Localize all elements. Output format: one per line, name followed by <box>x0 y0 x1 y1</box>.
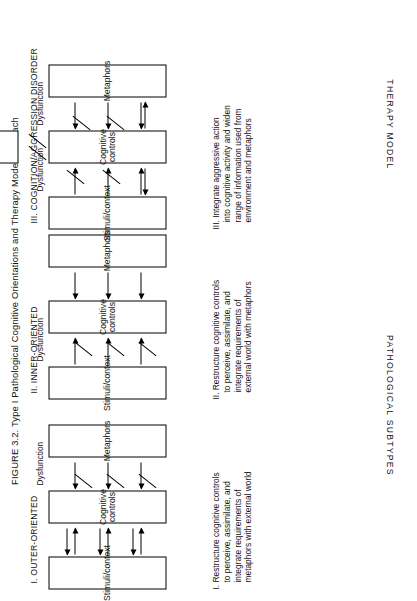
box-metaphors-label: Metaphors <box>102 60 111 101</box>
arrow-group-metaphors-to-controls <box>48 268 166 300</box>
arrow-left <box>74 462 75 488</box>
dysfunction-label: Dysfunction <box>34 317 44 361</box>
dysfunction-label: Dysfunction <box>34 441 44 485</box>
therapy-model-outer-oriented: I. Restructure cognitive controls to per… <box>210 464 253 589</box>
box-metaphors: Metaphors <box>48 424 166 457</box>
arrow-left <box>132 528 133 554</box>
box-cognitive-controls-label: Cognitive controls <box>98 129 117 165</box>
box-cognitive-controls-label: Cognitive controls <box>98 299 117 335</box>
column-header-outer-oriented: I. OUTER-ORIENTED <box>28 495 38 583</box>
figure-title: FIGURE 3.2. Type I Pathological Cognitiv… <box>8 0 19 601</box>
box-cognitive-controls: Cognitive controls <box>48 130 166 163</box>
therapy-model-cognition-aggression-disorder: III. Integrate aggressive action into co… <box>210 104 253 229</box>
arrow-left <box>107 102 108 128</box>
arrow-group-controls-to-stimuli <box>48 524 166 556</box>
column-cognition-aggression-disorder: Response Stimuli/context Dysfunction Cog… <box>48 51 348 229</box>
arrow-left <box>74 102 75 128</box>
arrow-left <box>144 168 145 194</box>
dysfunction-label: Dysfunction <box>34 81 44 125</box>
box-cognitive-controls: Cognitive controls <box>48 300 166 333</box>
arrow-group-metaphors-to-controls <box>48 458 166 490</box>
column-outer-oriented: Stimuli/context Cognitive controls Dysfu… <box>48 411 348 589</box>
column-inner-oriented: Stimuli/context Dysfunction Cognitive co… <box>48 221 348 399</box>
arrow-left <box>99 528 100 554</box>
box-cognitive-controls-label: Cognitive controls <box>98 489 117 525</box>
row-label-therapy-model: THERAPY MODEL <box>384 39 394 209</box>
arrow-left <box>74 272 75 298</box>
therapy-model-inner-oriented: II. Restructure cognitive controls to pe… <box>210 274 253 399</box>
dysfunction-label: Dysfunction <box>34 147 44 191</box>
box-response: Response <box>0 130 18 163</box>
arrow-left <box>107 462 108 488</box>
box-metaphors: Metaphors <box>48 64 166 97</box>
box-stimuli-context: Stimuli/context <box>48 556 166 589</box>
arrow-left <box>140 102 141 128</box>
row-label-pathological-subtypes: PATHOLOGICAL SUBTYPES <box>384 245 394 565</box>
box-stimuli-context: Stimuli/context <box>48 366 166 399</box>
figure-canvas: FIGURE 3.2. Type I Pathological Cognitiv… <box>0 0 417 601</box>
arrow-group-metaphors-to-controls <box>48 98 166 130</box>
arrow-group-controls-to-stimuli <box>48 164 166 196</box>
box-stimuli-context: Stimuli/context <box>48 196 166 229</box>
arrow-left <box>140 272 141 298</box>
arrow-left <box>107 272 108 298</box>
arrow-left <box>66 528 67 554</box>
box-cognitive-controls: Cognitive controls <box>48 490 166 523</box>
box-metaphors-label: Metaphors <box>102 420 111 461</box>
arrow-left <box>140 462 141 488</box>
